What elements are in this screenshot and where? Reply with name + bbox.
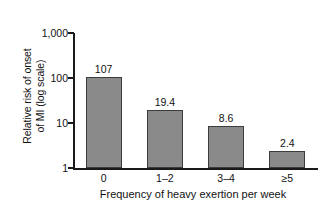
x-axis-tick-label: 1–2: [156, 173, 174, 184]
y-axis-tick-label: 10: [28, 118, 68, 129]
bar-chart: Relative risk of onset of MI (log scale)…: [0, 0, 326, 208]
plot-area: 10719.48.62.4 01–23–4≥5: [73, 18, 318, 168]
bar-group: 2.4: [269, 18, 305, 168]
bar: [147, 110, 183, 168]
x-axis-tick-label: ≥5: [282, 173, 294, 184]
bar: [269, 151, 305, 168]
y-axis-tick-label: 100: [28, 73, 68, 84]
bar-series: 10719.48.62.4: [73, 18, 318, 168]
bar-group: 19.4: [147, 18, 183, 168]
bar-group: 8.6: [208, 18, 244, 168]
bar-value-label: 19.4: [155, 97, 175, 108]
x-axis-tick-label: 3–4: [217, 173, 235, 184]
x-axis-title: Frequency of heavy exertion per week: [60, 188, 326, 200]
y-axis-tick-label: 1: [28, 163, 68, 174]
x-axis-tick-label: 0: [101, 173, 107, 184]
bar-group: 107: [86, 18, 122, 168]
bar-value-label: 8.6: [219, 113, 234, 124]
bar: [86, 77, 122, 168]
bar: [208, 126, 244, 168]
x-axis-line: [73, 168, 318, 170]
bar-value-label: 2.4: [280, 138, 295, 149]
bar-value-label: 107: [95, 64, 113, 75]
y-axis-tick-label: 1,000: [28, 28, 68, 39]
y-axis-tick-labels: 1101001,000: [26, 0, 68, 208]
